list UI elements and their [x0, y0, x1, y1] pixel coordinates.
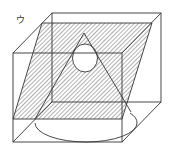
cone-base-ellipse-upper — [130, 113, 137, 123]
sphere-section — [73, 44, 98, 72]
figure-label: ウ — [16, 15, 25, 25]
cube-edge-bottom-right — [122, 102, 161, 142]
figure-svg — [0, 0, 175, 151]
geometry-figure: ウ — [0, 0, 175, 151]
